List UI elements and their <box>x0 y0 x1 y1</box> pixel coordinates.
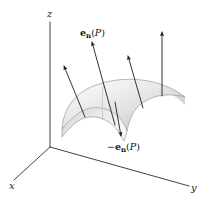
negative-normal-vector-label: −en(P) <box>107 141 140 154</box>
y-axis <box>50 147 189 186</box>
negative-normal-vector-paren-close: ) <box>136 141 140 152</box>
saddle-surface <box>62 79 185 141</box>
z-axis-label: z <box>46 8 53 19</box>
normal-vector-label: en(P) <box>80 27 105 40</box>
y-axis-label: y <box>190 182 197 193</box>
x-axis-label: x <box>9 180 15 191</box>
negative-sign: − <box>107 141 115 152</box>
normal-vector-paren-close: ) <box>101 27 105 38</box>
x-axis <box>14 147 50 180</box>
figure-container: z y x en(P) −en(P) <box>0 0 203 202</box>
vector-field-diagram: z y x en(P) −en(P) <box>0 0 203 202</box>
